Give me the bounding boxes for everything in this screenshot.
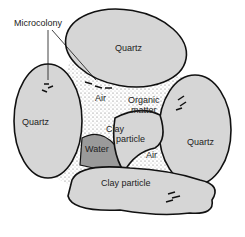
label-quartz-top: Quartz bbox=[115, 43, 143, 53]
label-air-2: Air bbox=[146, 150, 157, 160]
quartz-right-grain bbox=[159, 75, 231, 185]
label-clay-bottom: Clay particle bbox=[101, 178, 151, 188]
label-organic: Organic bbox=[128, 95, 160, 105]
label-quartz-right: Quartz bbox=[187, 137, 215, 147]
soil-aggregate-diagram: Microcolony Quartz Quartz Quartz Air Org… bbox=[0, 0, 245, 237]
label-quartz-left: Quartz bbox=[22, 117, 50, 127]
label-water: Water bbox=[85, 144, 109, 154]
label-air-1: Air bbox=[95, 93, 106, 103]
label-microcolony: Microcolony bbox=[14, 18, 63, 28]
label-matter: matter bbox=[131, 105, 157, 115]
label-particle: particle bbox=[116, 134, 145, 144]
label-clay: Clay bbox=[106, 124, 125, 134]
